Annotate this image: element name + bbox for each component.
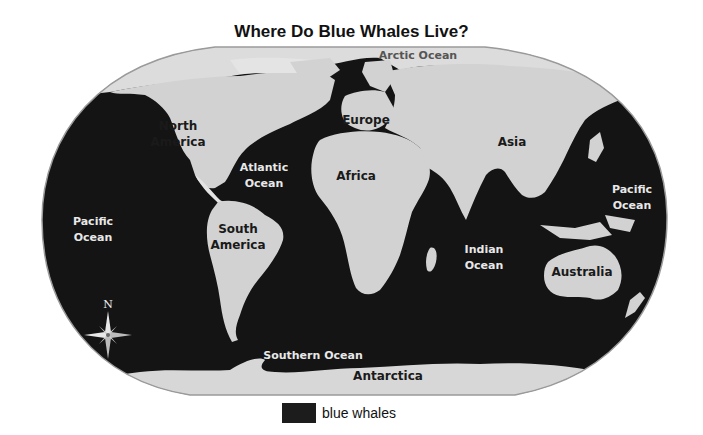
label-south-america-2: America — [210, 238, 265, 252]
label-pacific-ocean-east-1: Pacific — [612, 183, 652, 196]
label-africa: Africa — [336, 169, 376, 183]
label-atlantic-ocean-2: Ocean — [245, 177, 284, 190]
legend-label-blue-whales: blue whales — [322, 405, 396, 421]
legend-swatch-blue-whales — [282, 403, 316, 423]
label-north-america-1: North — [159, 119, 197, 133]
world-map: Arctic Ocean North America Europe Asia A… — [0, 0, 703, 435]
label-australia: Australia — [551, 265, 612, 279]
label-arctic-ocean: Arctic Ocean — [379, 49, 457, 62]
label-pacific-ocean-west-1: Pacific — [73, 215, 113, 228]
label-southern-ocean: Southern Ocean — [263, 349, 363, 362]
label-atlantic-ocean-1: Atlantic — [240, 161, 288, 174]
label-pacific-ocean-east-2: Ocean — [613, 199, 652, 212]
legend: blue whales — [282, 403, 396, 423]
label-indian-ocean-2: Ocean — [465, 259, 504, 272]
compass-north-label: N — [103, 298, 113, 311]
label-indian-ocean-1: Indian — [465, 243, 504, 256]
label-europe: Europe — [342, 113, 390, 127]
label-south-america-1: South — [218, 222, 258, 236]
label-pacific-ocean-west-2: Ocean — [74, 231, 113, 244]
label-north-america-2: America — [150, 135, 205, 149]
label-asia: Asia — [498, 135, 527, 149]
label-antarctica: Antarctica — [353, 369, 423, 383]
